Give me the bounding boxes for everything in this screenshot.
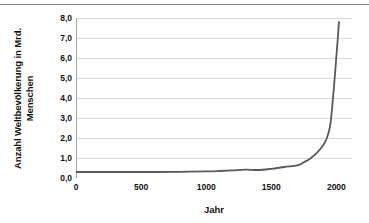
- x-tick-label: 1500: [251, 182, 291, 192]
- plot-area: [76, 18, 352, 178]
- population-growth-chart: Anzahl Weltbevölkerung in Mrd. Menschen …: [0, 0, 369, 223]
- series-line-weltbevoelkerung: [76, 22, 339, 172]
- gridlines: [76, 19, 352, 179]
- x-tick-label: 1000: [186, 182, 226, 192]
- x-tick-label: 2000: [316, 182, 356, 192]
- x-tick-label: 500: [121, 182, 161, 192]
- plot-canvas: [76, 18, 352, 178]
- x-axis-title: Jahr: [76, 204, 352, 215]
- x-tick-label: 0: [56, 182, 96, 192]
